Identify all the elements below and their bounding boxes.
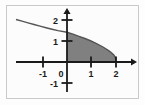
y-axis-arrowhead (63, 8, 70, 14)
x-tick-label-neg1: -1 (39, 69, 47, 79)
x-tick-label-2: 2 (113, 69, 118, 79)
origin-label: 0 (58, 69, 63, 79)
y-tick-label-2: 2 (53, 16, 58, 26)
x-tick-label-1: 1 (88, 69, 93, 79)
x-axis-arrowhead (131, 58, 137, 65)
figure-root: -1 1 2 2 1 -1 0 (0, 0, 145, 105)
plot-canvas: -1 1 2 2 1 -1 0 (0, 0, 145, 105)
y-tick-label-1: 1 (53, 37, 58, 47)
y-tick-label-neg1: -1 (50, 79, 58, 89)
